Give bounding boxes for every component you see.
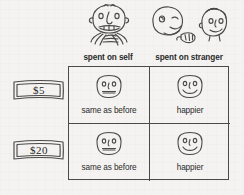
matrix-figure: spent on self spent on stranger $5 $20 bbox=[0, 0, 244, 195]
happy-face-icon bbox=[175, 130, 205, 160]
cell-outcome-label: same as before bbox=[81, 106, 136, 115]
face-giving-to-stranger-icon bbox=[148, 4, 230, 52]
column-header-spent-on-self: spent on self bbox=[68, 53, 148, 62]
matrix-cell-five-self: same as before bbox=[69, 67, 149, 123]
matrix-cell-five-stranger: happier bbox=[150, 67, 230, 123]
neutral-face-icon bbox=[94, 73, 124, 103]
row-label-text: $20 bbox=[12, 138, 66, 162]
column-header-spent-on-stranger: spent on stranger bbox=[148, 53, 230, 62]
row-label-twenty-dollars: $20 bbox=[12, 138, 66, 162]
neutral-face-icon bbox=[94, 130, 124, 160]
matrix-cell-twenty-stranger: happier bbox=[150, 124, 230, 181]
matrix-cell-twenty-self: same as before bbox=[69, 124, 149, 181]
happy-face-icon bbox=[175, 73, 205, 103]
row-label-text: $5 bbox=[12, 78, 66, 102]
cell-outcome-label: happier bbox=[177, 163, 204, 172]
cell-outcome-label: same as before bbox=[81, 163, 136, 172]
face-eating-icon bbox=[80, 2, 138, 52]
row-label-five-dollars: $5 bbox=[12, 78, 66, 102]
outcome-matrix: same as before happier bbox=[68, 66, 229, 180]
cell-outcome-label: happier bbox=[177, 106, 204, 115]
